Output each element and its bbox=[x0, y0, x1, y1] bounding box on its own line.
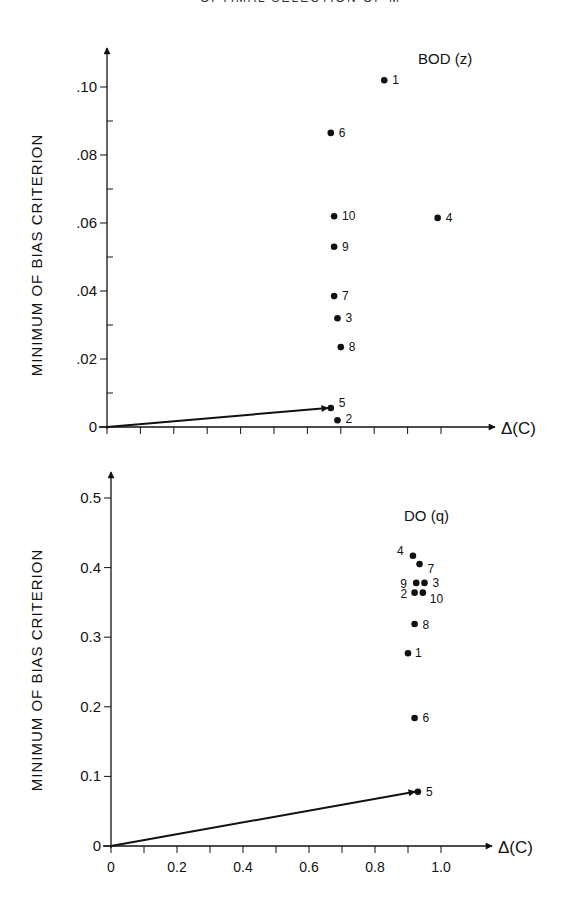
data-point-label: 9 bbox=[400, 577, 407, 591]
data-point bbox=[420, 589, 427, 596]
data-point-label: 5 bbox=[426, 785, 433, 799]
data-point-label: 5 bbox=[339, 396, 346, 410]
data-point-label: 1 bbox=[392, 73, 399, 87]
data-point bbox=[327, 130, 334, 137]
data-point bbox=[421, 580, 428, 587]
data-point-label: 8 bbox=[349, 340, 356, 354]
data-point bbox=[410, 552, 417, 559]
data-point-label: 9 bbox=[342, 240, 349, 254]
data-point-label: 7 bbox=[342, 289, 349, 303]
x-tick-label: 0.6 bbox=[299, 859, 319, 875]
x-tick-label: 0.4 bbox=[233, 859, 253, 875]
data-point bbox=[381, 77, 388, 84]
x-tick-label: 0.8 bbox=[365, 859, 385, 875]
data-point-label: 6 bbox=[339, 126, 346, 140]
data-point bbox=[331, 293, 338, 300]
y-tick-label: .10 bbox=[76, 78, 97, 95]
data-point bbox=[405, 650, 412, 657]
data-point-label: 4 bbox=[446, 211, 453, 225]
data-point-label: 3 bbox=[345, 311, 352, 325]
data-point bbox=[334, 315, 341, 322]
data-point-label: 1 bbox=[415, 646, 422, 660]
y-tick-label: .06 bbox=[76, 214, 97, 231]
data-point bbox=[411, 621, 418, 628]
chart-title: DO (q) bbox=[404, 507, 449, 524]
y-axis-label: MINIMUM OF BIAS CRITERION bbox=[28, 134, 45, 377]
y-tick-label: 0.3 bbox=[80, 628, 101, 645]
data-point bbox=[434, 215, 441, 222]
y-axis-label: MINIMUM OF BIAS CRITERION bbox=[28, 549, 45, 792]
x-axis-label: Δ(C) bbox=[501, 419, 536, 438]
data-point-label: 6 bbox=[423, 711, 430, 725]
y-tick-label: 0.5 bbox=[80, 489, 101, 506]
chart-bod: Δ(C)MINIMUM OF BIAS CRITERIONBOD (z)0.02… bbox=[28, 48, 536, 438]
origin-arrow bbox=[111, 792, 415, 846]
data-point-label: 7 bbox=[428, 562, 435, 576]
scatter-figure: Δ(C)MINIMUM OF BIAS CRITERIONBOD (z)0.02… bbox=[0, 0, 573, 910]
data-point-label: 3 bbox=[433, 576, 440, 590]
y-tick-label: 0.2 bbox=[80, 698, 101, 715]
y-tick-label: .04 bbox=[76, 282, 97, 299]
data-point-label: 10 bbox=[342, 209, 356, 223]
y-tick-label: 0.4 bbox=[80, 559, 101, 576]
data-point bbox=[413, 580, 420, 587]
x-axis-label: Δ(C) bbox=[498, 838, 533, 857]
y-tick-label: .08 bbox=[76, 146, 97, 163]
data-point-label: 8 bbox=[423, 618, 430, 632]
data-point-label: 2 bbox=[345, 412, 352, 426]
data-point-label: 10 bbox=[430, 592, 444, 606]
data-point bbox=[331, 244, 338, 251]
data-point bbox=[415, 788, 422, 795]
data-point-label: 4 bbox=[397, 544, 404, 558]
y-tick-label: 0 bbox=[93, 837, 101, 854]
y-tick-label: 0 bbox=[89, 418, 97, 435]
chart-do: Δ(C)MINIMUM OF BIAS CRITERIONDO (q)00.20… bbox=[28, 472, 533, 875]
data-point bbox=[334, 417, 341, 424]
x-tick-label: 0 bbox=[107, 859, 115, 875]
data-point bbox=[411, 715, 418, 722]
data-point bbox=[338, 344, 345, 351]
x-tick-label: 0.2 bbox=[167, 859, 187, 875]
figure: OPTIMAL SELECTION OF MODELS Δ(C)MINIMUM … bbox=[0, 0, 573, 910]
y-tick-label: .02 bbox=[76, 350, 97, 367]
data-point bbox=[411, 589, 418, 596]
data-point bbox=[331, 213, 338, 220]
x-tick-label: 1.0 bbox=[431, 859, 451, 875]
page-header-fragment: OPTIMAL SELECTION OF MODELS bbox=[200, 0, 400, 5]
origin-arrow bbox=[107, 408, 328, 427]
y-tick-label: 0.1 bbox=[80, 767, 101, 784]
data-point bbox=[327, 405, 334, 412]
chart-title: BOD (z) bbox=[418, 50, 472, 67]
data-point bbox=[416, 561, 423, 568]
